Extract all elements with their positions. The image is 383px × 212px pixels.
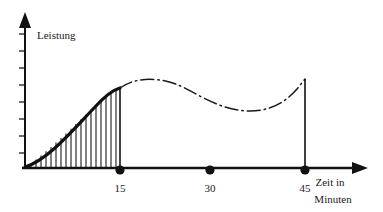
x-tick-label-45: 45 (300, 182, 312, 194)
x-axis-label-line2: Minuten (314, 193, 352, 205)
y-axis-label: Leistung (37, 29, 76, 41)
x-axis-marker-45 (300, 165, 309, 174)
x-tick-label-30: 30 (205, 182, 217, 194)
performance-over-time-chart: Leistung 15 30 45 Zeit in Minuten (0, 0, 383, 212)
x-axis-label-line1: Zeit in (315, 176, 345, 188)
chart-canvas: Leistung 15 30 45 Zeit in Minuten (0, 0, 383, 212)
x-tick-label-15: 15 (115, 182, 127, 194)
x-axis-marker-30 (205, 165, 214, 174)
x-axis-marker-15 (115, 165, 124, 174)
